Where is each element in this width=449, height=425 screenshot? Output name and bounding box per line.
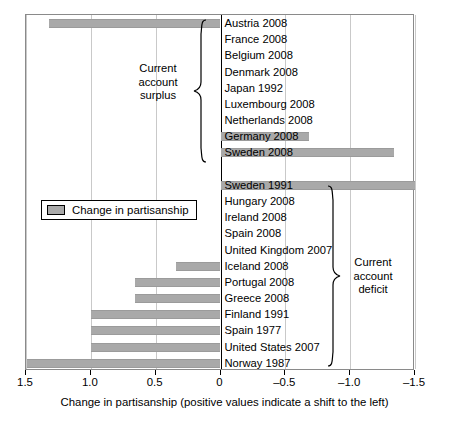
category-label: Netherlands 2008 bbox=[225, 113, 313, 128]
chart-row: Netherlands 2008 bbox=[26, 112, 413, 128]
deficit-annotation-line2: account bbox=[340, 270, 406, 284]
chart-row: Sweden 2008 bbox=[26, 144, 413, 160]
surplus-brace-icon bbox=[192, 18, 208, 164]
x-axis-tick bbox=[155, 370, 156, 375]
x-axis-tick-label: 1.5 bbox=[5, 376, 45, 388]
x-axis-tick bbox=[414, 370, 415, 375]
x-axis-tick bbox=[90, 370, 91, 375]
surplus-annotation-line1: Current bbox=[126, 62, 190, 76]
x-axis-tick bbox=[284, 370, 285, 375]
category-label: Ireland 2008 bbox=[225, 210, 287, 225]
category-label: Austria 2008 bbox=[225, 16, 288, 31]
chart-row: Austria 2008 bbox=[26, 15, 413, 31]
chart-row bbox=[26, 161, 413, 177]
bar-chart: Austria 2008France 2008Belgium 2008Denma… bbox=[0, 0, 449, 425]
chart-row: Sweden 1991 bbox=[26, 177, 413, 193]
chart-row: Japan 1992 bbox=[26, 80, 413, 96]
x-axis-tick bbox=[25, 370, 26, 375]
legend-label: Change in partisanship bbox=[72, 204, 189, 216]
category-label: Belgium 2008 bbox=[225, 48, 293, 63]
chart-row: United States 2007 bbox=[26, 339, 413, 355]
chart-row: Luxembourg 2008 bbox=[26, 96, 413, 112]
chart-row: Belgium 2008 bbox=[26, 47, 413, 63]
chart-row: Finland 1991 bbox=[26, 306, 413, 322]
category-label: Greece 2008 bbox=[225, 291, 290, 306]
deficit-annotation-line3: deficit bbox=[340, 283, 406, 297]
bar bbox=[135, 294, 221, 303]
chart-row: Norway 1987 bbox=[26, 355, 413, 371]
chart-row: Spain 2008 bbox=[26, 225, 413, 241]
x-axis-title: Change in partisanship (positive values … bbox=[0, 396, 449, 408]
x-axis-tick bbox=[349, 370, 350, 375]
chart-row: Denmark 2008 bbox=[26, 64, 413, 80]
category-label: Finland 1991 bbox=[225, 307, 290, 322]
legend-swatch-icon bbox=[47, 205, 65, 215]
category-label: Japan 1992 bbox=[225, 81, 283, 96]
category-label: Luxembourg 2008 bbox=[225, 97, 315, 112]
deficit-annotation: Current account deficit bbox=[340, 256, 406, 297]
x-axis-tick-label: 0.5 bbox=[135, 376, 175, 388]
x-axis-tick-label: 1.0 bbox=[70, 376, 110, 388]
category-label: Sweden 2008 bbox=[225, 145, 293, 160]
bar bbox=[91, 343, 221, 352]
x-axis-tick-label: –1.0 bbox=[329, 376, 369, 388]
deficit-annotation-line1: Current bbox=[340, 256, 406, 270]
category-label: Spain 1977 bbox=[225, 323, 282, 338]
surplus-annotation-line3: surplus bbox=[126, 89, 190, 103]
category-label: Norway 1987 bbox=[225, 356, 291, 371]
category-label: Spain 2008 bbox=[225, 226, 282, 241]
chart-row: France 2008 bbox=[26, 31, 413, 47]
chart-row: Spain 1977 bbox=[26, 322, 413, 338]
category-label: United States 2007 bbox=[225, 340, 320, 355]
category-label: Denmark 2008 bbox=[225, 65, 298, 80]
category-label: Hungary 2008 bbox=[225, 194, 295, 209]
bar bbox=[176, 262, 220, 271]
category-label: Iceland 2008 bbox=[225, 259, 289, 274]
surplus-annotation: Current account surplus bbox=[126, 62, 190, 103]
x-axis-tick-label: 0 bbox=[200, 376, 240, 388]
plot-area: Austria 2008France 2008Belgium 2008Denma… bbox=[25, 14, 414, 370]
bar bbox=[91, 310, 221, 319]
legend: Change in partisanship bbox=[41, 200, 197, 220]
category-label: Sweden 1991 bbox=[225, 178, 293, 193]
x-axis-tick-label: –0.5 bbox=[264, 376, 304, 388]
category-label: United Kingdom 2007 bbox=[225, 243, 333, 258]
category-label: France 2008 bbox=[225, 32, 288, 47]
surplus-annotation-line2: account bbox=[126, 76, 190, 90]
gridline bbox=[415, 15, 416, 369]
x-axis-tick bbox=[220, 370, 221, 375]
chart-row: Germany 2008 bbox=[26, 128, 413, 144]
x-axis-tick-label: –1.5 bbox=[394, 376, 434, 388]
category-label: Germany 2008 bbox=[225, 129, 299, 144]
bar bbox=[27, 359, 220, 368]
bar bbox=[135, 278, 221, 287]
bar bbox=[91, 326, 221, 335]
category-label: Portugal 2008 bbox=[225, 275, 295, 290]
